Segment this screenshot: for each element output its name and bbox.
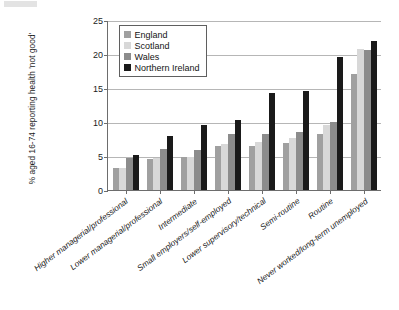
legend-swatch-wales bbox=[124, 53, 131, 60]
legend-item-wales: Wales bbox=[124, 51, 200, 62]
x-axis-tick-mark bbox=[160, 190, 161, 194]
bar bbox=[235, 120, 242, 190]
legend-swatch-england bbox=[124, 31, 131, 38]
y-axis-tick-mark bbox=[104, 123, 108, 124]
x-axis-category-label: Intermediate bbox=[156, 196, 199, 232]
x-axis-category-label: Never worked/long-term unemployed bbox=[255, 196, 370, 286]
bar bbox=[262, 134, 269, 190]
bar bbox=[153, 158, 160, 190]
legend-label-scotland: Scotland bbox=[135, 41, 170, 51]
bar bbox=[119, 168, 126, 190]
x-axis-tick-mark bbox=[262, 190, 263, 194]
bar bbox=[289, 138, 296, 190]
x-axis-tick-mark bbox=[228, 190, 229, 194]
bar-group bbox=[313, 21, 347, 190]
x-axis-category-label: Lower supervisory/technical bbox=[180, 196, 268, 266]
bar bbox=[194, 150, 201, 190]
bar bbox=[181, 157, 188, 190]
bar bbox=[201, 125, 208, 190]
y-axis-tick-mark bbox=[104, 191, 108, 192]
x-axis-tick-mark bbox=[364, 190, 365, 194]
bar-group bbox=[279, 21, 313, 190]
bar bbox=[255, 142, 262, 190]
x-axis-tick-mark bbox=[126, 190, 127, 194]
bar bbox=[147, 159, 154, 190]
bar-chart: % aged 16-74 reporting health 'not good'… bbox=[0, 0, 399, 310]
y-axis-title: % aged 16-74 reporting health 'not good' bbox=[28, 19, 37, 199]
bar bbox=[187, 157, 194, 190]
legend-swatch-northern-ireland bbox=[124, 64, 131, 71]
bar-group bbox=[211, 21, 245, 190]
x-axis-category-label: Small employers/self-employed bbox=[135, 196, 233, 273]
bar bbox=[221, 144, 228, 190]
bar bbox=[364, 50, 371, 190]
legend-label-england: England bbox=[135, 30, 168, 40]
bar-group bbox=[245, 21, 279, 190]
bar-group bbox=[347, 21, 381, 190]
bar bbox=[113, 168, 120, 190]
legend-item-northern-ireland: Northern Ireland bbox=[124, 62, 200, 73]
bar bbox=[228, 134, 235, 190]
bar bbox=[296, 132, 303, 190]
legend-label-wales: Wales bbox=[135, 52, 160, 62]
y-axis-tick-mark bbox=[104, 157, 108, 158]
bar bbox=[317, 134, 324, 190]
bar bbox=[351, 74, 358, 190]
bar bbox=[303, 91, 310, 190]
bar bbox=[323, 125, 330, 190]
bar bbox=[160, 149, 167, 190]
bar bbox=[249, 146, 256, 190]
legend-item-england: England bbox=[124, 29, 200, 40]
legend: England Scotland Wales Northern Ireland bbox=[119, 25, 207, 77]
y-axis-tick-mark bbox=[104, 55, 108, 56]
x-axis-tick-mark bbox=[296, 190, 297, 194]
legend-swatch-scotland bbox=[124, 42, 131, 49]
bar bbox=[283, 143, 290, 190]
x-axis-tick-mark bbox=[194, 190, 195, 194]
x-axis-category-label: Routine bbox=[306, 196, 335, 221]
scan-artifact bbox=[4, 1, 37, 7]
y-axis-tick-mark bbox=[104, 89, 108, 90]
bar bbox=[269, 93, 276, 190]
bar bbox=[133, 155, 140, 190]
bar bbox=[357, 49, 364, 190]
bar bbox=[337, 57, 344, 190]
x-axis-tick-mark bbox=[330, 190, 331, 194]
bar bbox=[167, 136, 174, 190]
legend-label-northern-ireland: Northern Ireland bbox=[135, 63, 200, 73]
bar bbox=[330, 122, 337, 190]
bar bbox=[371, 41, 378, 190]
y-axis-tick-mark bbox=[104, 21, 108, 22]
legend-item-scotland: Scotland bbox=[124, 40, 200, 51]
x-axis-category-label: Higher managerial/professional bbox=[32, 196, 130, 273]
bar bbox=[215, 146, 222, 190]
x-axis-category-label: Semi-routine bbox=[258, 196, 302, 232]
bar bbox=[126, 158, 133, 190]
x-axis-category-label: Lower managerial/professional bbox=[68, 196, 164, 272]
